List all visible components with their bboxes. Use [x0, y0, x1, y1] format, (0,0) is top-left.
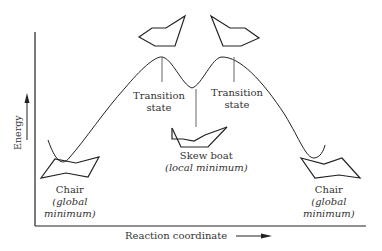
ts-ring-right-icon: [211, 16, 259, 46]
ts-right-label: Transitionstate: [211, 87, 263, 111]
chair-left-icon: [41, 157, 99, 178]
x-axis-label: Reaction coordinate: [125, 230, 227, 242]
chair-left-label: Chair(globalminimum): [44, 184, 96, 220]
skew-boat-icon: [172, 127, 227, 141]
energy-curve: [48, 57, 325, 162]
energy-arrow-icon: [25, 93, 30, 103]
chair-right-label: Chair(globalminimum): [303, 184, 355, 220]
ts-left-label: Transitionstate: [133, 90, 185, 114]
y-axis-label: Energy: [12, 115, 23, 150]
chair-right-icon: [301, 158, 360, 178]
ts-ring-left-icon: [139, 16, 185, 46]
reaction-arrow-icon: [261, 234, 272, 239]
skew-boat-label: Skew boat(local minimum): [165, 150, 248, 174]
